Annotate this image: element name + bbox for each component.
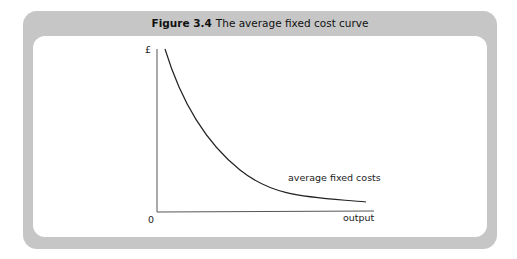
- y-axis-label: £: [145, 44, 151, 55]
- origin-label: 0: [148, 214, 154, 225]
- chart-plot: [0, 0, 517, 259]
- curve-label: average fixed costs: [288, 172, 381, 183]
- x-axis-label: output: [343, 212, 374, 223]
- x-axis: [157, 211, 374, 212]
